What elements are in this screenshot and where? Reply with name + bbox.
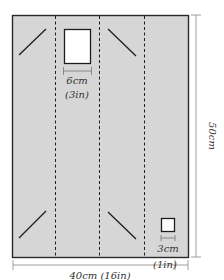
- small-square-in-label: (1in): [153, 259, 177, 270]
- height-dimension: [191, 15, 201, 257]
- small-square-cutout: [162, 219, 175, 232]
- large-square-in-label: (3in): [65, 89, 89, 100]
- large-square-cm-label: 6cm: [66, 75, 87, 86]
- pattern-diagram: 6cm (3in) 3cm 50cm (1in) 40cm (16in): [0, 0, 224, 280]
- small-square-cm-label: 3cm: [157, 243, 178, 254]
- large-square-cutout: [65, 30, 91, 64]
- width-label: 40cm (16in): [68, 270, 130, 280]
- height-label: 50cm: [207, 122, 218, 150]
